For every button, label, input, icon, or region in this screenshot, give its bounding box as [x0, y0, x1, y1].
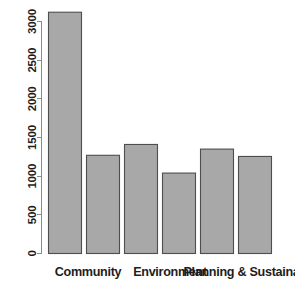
bar — [239, 156, 272, 253]
chart-canvas: 050010001500200025003000 CommunityEnviro… — [0, 0, 295, 290]
bar — [49, 12, 82, 253]
bar — [125, 144, 158, 253]
x-tick-label: Community — [55, 265, 122, 279]
bars-group — [49, 12, 272, 253]
bar — [163, 173, 196, 253]
y-tick-label: 1500 — [26, 125, 38, 150]
x-tick-labels: CommunityEnvironmentPlanning & Sustainab… — [55, 265, 295, 279]
y-tick-labels: 050010001500200025003000 — [26, 9, 38, 257]
bar — [201, 149, 234, 253]
y-tick-label: 500 — [26, 206, 38, 225]
bar — [87, 155, 120, 253]
bar-chart: 050010001500200025003000 CommunityEnviro… — [0, 0, 295, 290]
y-tick-label: 1000 — [26, 164, 38, 189]
y-tick-label: 2500 — [26, 48, 38, 73]
y-tick-label: 3000 — [26, 9, 38, 34]
y-tick-label: 2000 — [26, 86, 38, 111]
y-tick-label: 0 — [26, 250, 38, 256]
x-tick-label: Planning & Sustainabili — [183, 265, 295, 279]
